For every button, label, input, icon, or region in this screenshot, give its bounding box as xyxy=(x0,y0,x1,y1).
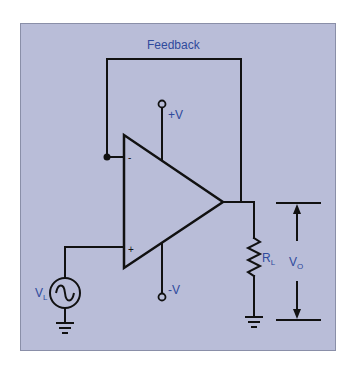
arrow-up-icon xyxy=(293,204,301,214)
inverting-input-label: - xyxy=(128,152,131,163)
load-resistor-label: RL xyxy=(262,251,276,267)
negative-supply-label: -V xyxy=(168,283,180,297)
negative-terminal-icon xyxy=(159,294,166,301)
positive-supply-label: +V xyxy=(168,108,183,122)
source-label: VL xyxy=(35,286,48,302)
ac-source-icon xyxy=(50,278,80,308)
source-label-main: V xyxy=(35,286,43,300)
ground-source-icon xyxy=(56,323,74,333)
output-voltage-label: VO xyxy=(289,255,303,271)
op-amp-triangle xyxy=(124,135,223,268)
noninverting-input-wire xyxy=(65,247,124,277)
load-label-main: R xyxy=(262,251,271,265)
source-label-sub: L xyxy=(43,293,48,302)
output-wire xyxy=(223,202,254,238)
junction-dot xyxy=(104,154,111,161)
output-label-main: V xyxy=(289,255,297,269)
ground-load-icon xyxy=(245,317,263,327)
feedback-wire xyxy=(107,59,241,202)
positive-terminal-icon xyxy=(159,101,166,108)
load-resistor-zigzag xyxy=(248,238,260,276)
output-label-sub: O xyxy=(297,262,303,271)
feedback-label: Feedback xyxy=(147,38,201,52)
load-label-sub: L xyxy=(271,258,276,267)
circuit-diagram: Feedback +V -V - + VL RL VO xyxy=(0,0,351,368)
noninverting-input-label: + xyxy=(128,244,134,255)
arrow-down-icon xyxy=(293,309,301,319)
